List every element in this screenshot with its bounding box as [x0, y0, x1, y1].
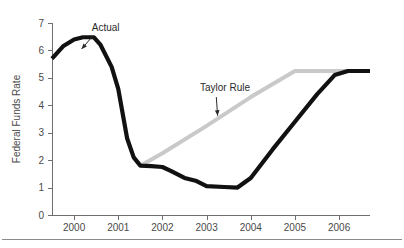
x-axis-ticks: 2000200120022003200420052006	[63, 216, 351, 234]
annotation-label-actual: Actual	[92, 22, 120, 33]
annotation-label-taylor-rule: Taylor Rule	[200, 82, 250, 93]
y-tick-label: 7	[38, 18, 44, 29]
series-line-actual	[52, 37, 370, 187]
x-tick-label: 2004	[240, 222, 263, 233]
chart-plot-area: 012345672000200120022003200420052006Fede…	[0, 0, 404, 248]
annotation-arrowhead-taylor-rule	[215, 110, 220, 116]
y-tick-label: 2	[38, 155, 44, 166]
y-axis-ticks: 01234567	[38, 18, 52, 221]
x-tick-label: 2003	[195, 222, 218, 233]
x-tick-label: 2005	[284, 222, 307, 233]
chart-series-group	[52, 37, 370, 187]
y-tick-label: 0	[38, 210, 44, 221]
y-tick-label: 3	[38, 127, 44, 138]
x-tick-label: 2000	[63, 222, 86, 233]
y-axis-title: Federal Funds Rate	[11, 74, 22, 163]
y-tick-label: 6	[38, 45, 44, 56]
x-tick-label: 2002	[151, 222, 174, 233]
figure-bottom-rule	[2, 239, 402, 240]
y-tick-label: 4	[38, 100, 44, 111]
x-tick-label: 2001	[107, 222, 130, 233]
chart-figure: 012345672000200120022003200420052006Fede…	[0, 0, 404, 248]
y-tick-label: 1	[38, 182, 44, 193]
y-tick-label: 5	[38, 72, 44, 83]
x-tick-label: 2006	[328, 222, 351, 233]
chart-annotations: ActualTaylor Rule	[82, 22, 251, 116]
series-line-taylor-rule	[140, 71, 370, 166]
